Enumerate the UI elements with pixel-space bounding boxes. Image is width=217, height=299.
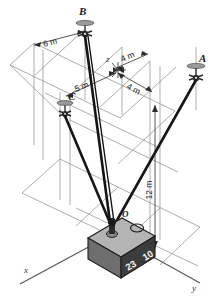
figure-canvas: B A C 6 m 4 m [0,0,217,299]
statics-figure: B A C 6 m 4 m [0,0,217,299]
origin-label: O [122,209,129,219]
anchor-label-a: A [198,52,206,64]
axis-label-y: y [191,283,196,293]
anchor-b-plate [76,20,94,25]
anchor-a-plate [187,63,205,68]
axis-label-z: z [105,54,110,64]
dimension-label-12m: 12 m [144,181,154,200]
anchor-label-b: B [78,5,86,17]
crate-shackle-eye [108,218,116,226]
axis-label-x: x [23,265,28,275]
